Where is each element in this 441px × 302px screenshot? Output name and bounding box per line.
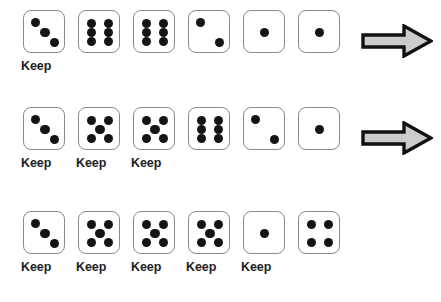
dice-board: KeepKeepKeepKeepKeepKeepKeepKeepKeep [0,0,441,302]
die-face-5[interactable] [78,107,120,150]
die-pip [31,115,41,125]
die-slot [243,107,287,179]
die-face-1[interactable] [298,10,340,53]
die-pip [40,125,50,135]
keep-label: Keep [76,260,124,274]
die-slot [298,211,342,283]
keep-label: Keep [21,260,69,274]
die-face-3[interactable] [23,107,65,150]
die-pip [95,125,105,135]
die-pip [324,220,334,230]
die-slot: Keep [23,211,67,283]
die-pip [214,125,224,135]
die-face-2[interactable] [243,107,285,150]
die-pip [104,28,114,38]
die-pip [142,116,152,126]
die-pip [50,135,60,145]
die-pip [104,238,114,248]
die-face-6[interactable] [133,10,175,53]
die-face-6[interactable] [78,10,120,53]
die-pip [87,220,97,230]
die-pip [142,220,152,230]
die-pip [50,239,60,249]
die-pip [159,238,169,248]
die-pip [251,115,261,125]
die-pip [197,134,207,144]
die-pip [315,28,324,37]
die-pip [104,220,114,230]
die-face-3[interactable] [23,10,65,53]
die-pip [142,134,152,144]
die-face-5[interactable] [188,211,230,254]
die-pip [215,38,225,48]
die-pip [159,19,169,29]
die-pip [150,125,160,135]
die-pip [197,238,207,248]
die-pip [324,238,334,248]
die-pip [214,134,224,144]
die-slot [298,107,342,179]
die-pip [87,238,97,248]
die-slot: Keep [23,107,67,179]
die-face-1[interactable] [298,107,340,150]
die-face-5[interactable] [78,211,120,254]
die-pip [95,229,105,239]
die-face-1[interactable] [243,10,285,53]
die-face-6[interactable] [188,107,230,150]
die-pip [270,135,280,145]
die-face-4[interactable] [298,211,340,254]
die-pip [87,116,97,126]
die-face-5[interactable] [133,107,175,150]
right-arrow-icon [361,24,433,58]
dice-row: Keep [0,10,441,100]
keep-label: Keep [21,59,69,73]
die-pip [260,229,269,238]
die-pip [50,38,60,48]
die-slot: Keep [78,211,122,283]
die-face-3[interactable] [23,211,65,254]
die-slot: Keep [78,107,122,179]
die-pip [214,220,224,230]
die-pip [104,134,114,144]
keep-label: Keep [186,260,234,274]
die-pip [142,37,152,47]
die-pip [87,19,97,29]
die-pip [159,28,169,38]
keep-label: Keep [131,156,179,170]
die-pip [104,116,114,126]
die-pip [31,219,41,229]
keep-label: Keep [76,156,124,170]
die-slot [78,10,122,82]
die-slot [133,10,177,82]
die-face-1[interactable] [243,211,285,254]
keep-label: Keep [21,156,69,170]
die-face-5[interactable] [133,211,175,254]
die-pip [159,116,169,126]
die-slot [188,10,232,82]
die-slot [298,10,342,82]
die-slot: Keep [133,107,177,179]
die-pip [40,229,50,239]
keep-label: Keep [131,260,179,274]
die-pip [197,116,207,126]
die-pip [315,125,324,134]
die-slot [243,10,287,82]
die-pip [307,220,317,230]
die-slot: Keep [188,211,232,283]
die-pip [142,19,152,29]
die-pip [104,37,114,47]
die-pip [197,220,207,230]
die-pip [87,28,97,38]
die-pip [142,28,152,38]
die-pip [87,37,97,47]
dice-row: KeepKeepKeepKeepKeep [0,211,441,301]
keep-label: Keep [241,260,289,274]
die-pip [159,37,169,47]
dice-row: KeepKeepKeep [0,107,441,197]
die-face-2[interactable] [188,10,230,53]
die-slot: Keep [243,211,287,283]
die-pip [142,238,152,248]
die-pip [214,116,224,126]
die-pip [159,220,169,230]
die-pip [214,238,224,248]
